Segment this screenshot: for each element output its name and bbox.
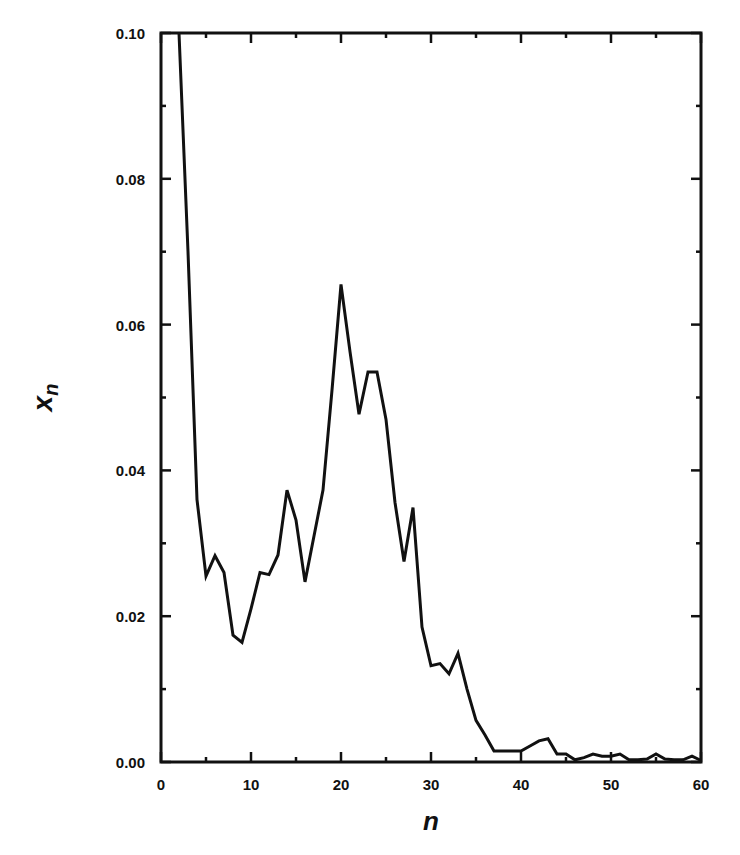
y-axis-label-main: x bbox=[27, 394, 58, 413]
y-axis-label-subscript: n bbox=[40, 384, 62, 396]
x-tick-label: 0 bbox=[157, 776, 165, 793]
x-tick-label: 10 bbox=[243, 776, 260, 793]
y-tick-label: 0.10 bbox=[116, 25, 145, 42]
y-tick-label: 0.00 bbox=[116, 754, 145, 771]
line-chart: 01020304050600.000.020.040.060.080.10 n … bbox=[0, 0, 740, 855]
x-tick-label: 20 bbox=[333, 776, 350, 793]
x-tick-label: 30 bbox=[423, 776, 440, 793]
x-tick-label: 40 bbox=[513, 776, 530, 793]
svg-text:xn: xn bbox=[27, 384, 62, 414]
tick-labels: 01020304050600.000.020.040.060.080.10 bbox=[116, 25, 710, 793]
plot-frame bbox=[161, 33, 701, 762]
x-axis-label: n bbox=[423, 806, 439, 836]
series-line-x-n bbox=[179, 33, 701, 761]
axis-ticks bbox=[161, 33, 701, 762]
y-tick-label: 0.02 bbox=[116, 608, 145, 625]
x-tick-label: 60 bbox=[693, 776, 710, 793]
y-tick-label: 0.06 bbox=[116, 317, 145, 334]
y-axis-label: xn bbox=[27, 384, 62, 414]
x-tick-label: 50 bbox=[603, 776, 620, 793]
y-tick-label: 0.04 bbox=[116, 462, 146, 479]
y-tick-label: 0.08 bbox=[116, 171, 145, 188]
